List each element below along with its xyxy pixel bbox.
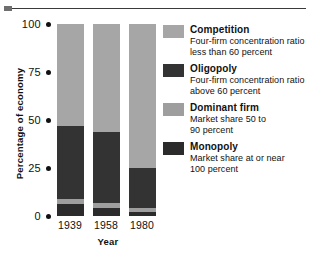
legend-description-line-2: above 60 percent: [190, 86, 309, 97]
y-tick-dot-icon: [46, 166, 51, 171]
legend-description-line-2: less than 60 percent: [190, 47, 309, 58]
legend: CompetitionFour-firm concentration ratio…: [163, 24, 309, 180]
bar-segment-oligopoly: [57, 126, 84, 199]
header-rule-marker: [4, 6, 12, 11]
legend-text: CompetitionFour-firm concentration ratio…: [190, 24, 309, 58]
legend-label: Oligopoly: [190, 63, 309, 75]
legend-swatch-icon: [163, 25, 184, 38]
plot-area: [54, 24, 162, 216]
legend-text: MonopolyMarket share at or near100 perce…: [190, 141, 309, 175]
bar-segment-competition: [93, 24, 120, 132]
y-tick-label: 100: [22, 18, 41, 30]
x-axis: 193919581980: [54, 219, 162, 233]
y-tick-dot-icon: [46, 214, 51, 219]
y-tick-25: 25: [28, 162, 54, 174]
y-axis: Percentage of economy 0255075100: [0, 24, 54, 216]
legend-description-line-1: Four-firm concentration ratio: [190, 36, 309, 47]
bar-segment-monopoly: [93, 208, 120, 216]
legend-swatch-icon: [163, 64, 184, 77]
y-tick-100: 100: [22, 18, 54, 30]
bar-segment-monopoly: [57, 204, 84, 216]
legend-description-line-1: Four-firm concentration ratio: [190, 75, 309, 86]
y-tick-dot-icon: [46, 22, 51, 27]
legend-item-competition[interactable]: CompetitionFour-firm concentration ratio…: [163, 24, 309, 58]
y-axis-title: Percentage of economy: [14, 44, 25, 204]
x-tick-label-1980: 1980: [125, 219, 159, 231]
legend-description-line-1: Market share at or near: [190, 153, 309, 164]
bar-1939[interactable]: [57, 24, 84, 216]
y-tick-dot-icon: [46, 118, 51, 123]
bar-1980[interactable]: [129, 24, 156, 216]
legend-label: Dominant firm: [190, 102, 309, 114]
legend-text: Dominant firmMarket share 50 to90 percen…: [190, 102, 309, 136]
x-tick-label-1939: 1939: [53, 219, 87, 231]
bar-segment-competition: [57, 24, 84, 126]
y-tick-dot-icon: [46, 70, 51, 75]
legend-label: Monopoly: [190, 141, 309, 153]
legend-swatch-icon: [163, 103, 184, 116]
legend-swatch-icon: [163, 142, 184, 155]
legend-item-dominant-firm[interactable]: Dominant firmMarket share 50 to90 percen…: [163, 102, 309, 136]
legend-description-line-2: 100 percent: [190, 164, 309, 175]
legend-text: OligopolyFour-firm concentration ratioab…: [190, 63, 309, 97]
y-tick-label: 50: [28, 114, 41, 126]
x-tick-label-1958: 1958: [89, 219, 123, 231]
legend-description-line-1: Market share 50 to: [190, 114, 309, 125]
y-tick-label: 0: [35, 210, 41, 222]
legend-item-monopoly[interactable]: MonopolyMarket share at or near100 perce…: [163, 141, 309, 175]
y-tick-75: 75: [28, 66, 54, 78]
bar-segment-competition: [129, 24, 156, 168]
y-tick-label: 25: [28, 162, 41, 174]
x-axis-title: Year: [54, 236, 162, 247]
y-tick-0: 0: [35, 210, 54, 222]
y-tick-label: 75: [28, 66, 41, 78]
legend-description-line-2: 90 percent: [190, 125, 309, 136]
bar-segment-monopoly: [129, 212, 156, 216]
bar-segment-oligopoly: [129, 168, 156, 208]
header-rule: [0, 6, 311, 11]
y-tick-50: 50: [28, 114, 54, 126]
bar-segment-oligopoly: [93, 132, 120, 203]
legend-label: Competition: [190, 24, 309, 36]
bar-1958[interactable]: [93, 24, 120, 216]
legend-item-oligopoly[interactable]: OligopolyFour-firm concentration ratioab…: [163, 63, 309, 97]
header-rule-line: [12, 8, 306, 9]
